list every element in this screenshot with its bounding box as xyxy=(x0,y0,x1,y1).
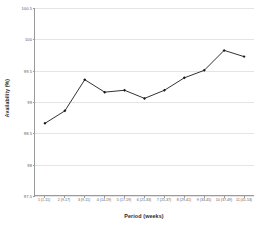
x-axis-tick-label: 7 (25-37) xyxy=(157,198,171,202)
y-axis-tick-label: 98.5 xyxy=(24,131,32,136)
x-axis-tick-label: 4 (14-19) xyxy=(97,198,111,202)
line-chart: Availability (%) 100.510099.59998.59897.… xyxy=(0,0,267,230)
x-axis-tick-label: 11 (41-53) xyxy=(236,198,252,202)
x-axis-tick-label: 2 (9-17) xyxy=(58,198,70,202)
plot-area xyxy=(34,8,254,196)
y-tickmark xyxy=(33,196,35,197)
x-axis-tick-label: 8 (29-41) xyxy=(177,198,191,202)
y-axis-title: Availability (%) xyxy=(0,0,14,195)
x-axis-tick-label: 3 (9-11) xyxy=(78,198,90,202)
series-line xyxy=(45,50,244,123)
y-axis-tick-label: 98 xyxy=(27,162,32,167)
y-axis-tick-label: 97.5 xyxy=(24,194,32,199)
x-axis-tick-label: 9 (33-45) xyxy=(197,198,211,202)
data-series xyxy=(35,8,254,195)
y-axis-tick-label: 100 xyxy=(25,37,32,42)
x-axis-tick-label: 6 (21-33) xyxy=(137,198,151,202)
x-axis-tick-labels: 1 (1-11)2 (9-17)3 (9-11)4 (14-19)5 (17-1… xyxy=(34,198,254,212)
y-axis-title-text: Availability (%) xyxy=(4,78,10,116)
data-point-marker xyxy=(123,89,126,92)
x-axis-title: Period (weeks) xyxy=(34,213,254,219)
x-axis-tick-label: 1 (1-11) xyxy=(38,198,50,202)
y-axis-tick-label: 99.5 xyxy=(24,68,32,73)
y-axis-tick-label: 99 xyxy=(27,100,32,105)
y-axis-tick-labels: 100.510099.59998.59897.5 xyxy=(13,8,33,196)
y-axis-tick-label: 100.5 xyxy=(22,6,33,11)
data-point-marker xyxy=(243,55,246,58)
x-axis-tick-label: 10 (37-49) xyxy=(216,198,232,202)
data-point-marker xyxy=(143,97,146,100)
x-axis-tick-label: 5 (17-19) xyxy=(117,198,131,202)
